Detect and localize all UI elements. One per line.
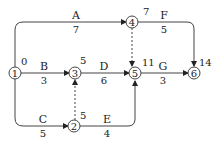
activity-B-duration: 3: [41, 75, 47, 86]
svg-text:5: 5: [132, 68, 138, 79]
svg-text:1: 1: [12, 68, 18, 79]
activity-G-label: G: [159, 60, 168, 73]
activity-D-label: D: [100, 60, 109, 73]
svg-text:2: 2: [71, 121, 77, 132]
node-6: 6: [188, 67, 200, 79]
node-3-time: 5: [80, 55, 86, 66]
node-3: 3: [69, 67, 81, 79]
svg-text:3: 3: [72, 68, 78, 79]
node-2: 2: [68, 120, 80, 132]
node-5: 5: [129, 67, 141, 79]
activity-F-duration: 5: [161, 24, 167, 35]
activity-D-duration: 6: [101, 75, 107, 86]
activity-C-label: C: [39, 113, 47, 126]
node-1: 1: [9, 67, 21, 79]
node-1-time: 0: [21, 56, 27, 67]
activity-F-label: F: [160, 9, 168, 22]
node-4: 4: [126, 16, 138, 28]
node-4-time: 7: [143, 6, 149, 17]
activity-C-duration: 5: [40, 128, 46, 139]
activity-E-duration: 4: [104, 128, 110, 139]
network-diagram: 1 3 5 6 4 2 0 5 11 14 7 5 A 7 B 3 C 5 D …: [0, 0, 217, 145]
node-6-time: 14: [199, 57, 212, 68]
activity-A-label: A: [71, 9, 81, 22]
node-2-time: 5: [80, 110, 86, 121]
activity-B-label: B: [40, 60, 48, 73]
svg-text:6: 6: [191, 68, 197, 79]
node-5-time: 11: [142, 57, 155, 68]
svg-text:4: 4: [129, 17, 135, 28]
activity-E-label: E: [103, 113, 111, 126]
activity-A-duration: 7: [73, 24, 79, 35]
activity-G-duration: 3: [160, 75, 166, 86]
